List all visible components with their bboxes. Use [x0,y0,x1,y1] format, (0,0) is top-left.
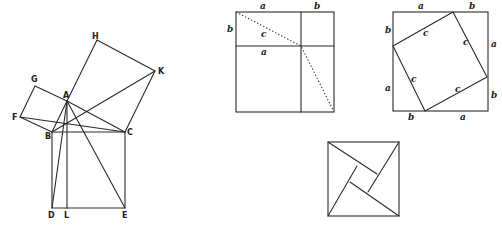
label-bottom-a: a [460,112,466,122]
label-top-b: b [314,1,320,11]
label-right-a: a [491,39,497,49]
pinwheel-line-tr [368,142,399,192]
pinwheel-line-tl [328,142,377,174]
grid-square-figure: a b b c a [227,1,334,112]
label-side-c-bottom: c [455,84,461,94]
label-top-a: a [418,1,424,11]
square-bcde [52,132,125,208]
pinwheel-line-br [350,182,399,216]
outer-square [393,12,488,111]
euclid-figure: H K G A F B C D L E [12,32,165,220]
outer-square [328,142,399,216]
label-l: L [64,211,69,220]
label-c: c [261,29,267,39]
label-mid-a: a [261,47,267,57]
outer-square [236,12,334,112]
label-right-b: b [491,90,497,100]
label-g: G [31,75,38,84]
label-top-a: a [260,1,266,11]
square-abfg [20,86,67,132]
label-left-b: b [385,25,391,35]
pinwheel-line-bl [328,166,357,216]
label-side-c-left: c [411,74,417,84]
label-left-a: a [385,83,391,93]
label-b: B [45,132,51,141]
inner-tilted-square [393,12,487,111]
pinwheel-figure [328,142,399,216]
label-h: H [92,32,99,41]
label-e: E [122,211,127,220]
dotted-hypotenuse [236,12,333,110]
tilted-square-figure: a b b a a b b a c c c c [385,1,497,122]
label-bottom-b: b [408,112,414,122]
label-d: D [48,211,55,220]
diagram-canvas: H K G A F B C D L E a b b c a a b b a a … [0,0,502,230]
label-a: A [63,91,70,100]
label-top-b: b [469,1,475,11]
square-acKH [67,40,155,132]
label-left-b: b [227,24,233,34]
label-f: F [12,113,17,122]
label-c: C [127,128,133,137]
label-k: K [158,67,165,76]
label-side-c-top: c [423,28,429,38]
label-side-c-right: c [463,37,469,47]
